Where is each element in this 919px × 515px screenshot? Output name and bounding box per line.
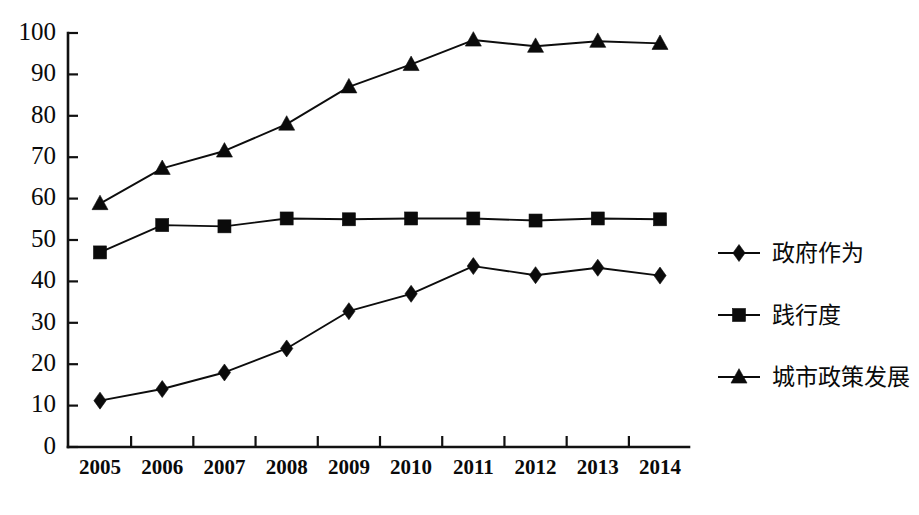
marker-square xyxy=(654,213,667,226)
marker-square xyxy=(405,212,418,225)
x-axis-tick-label: 2005 xyxy=(79,455,121,479)
chart-legend: 政府作为践行度城市政策发展 xyxy=(718,240,910,390)
series-2 xyxy=(94,212,667,259)
series-polyline xyxy=(100,266,660,401)
y-axis-tick-label: 30 xyxy=(31,308,56,335)
marker-triangle xyxy=(590,33,606,47)
marker-square xyxy=(467,212,480,225)
legend-label: 政府作为 xyxy=(772,240,864,266)
marker-square xyxy=(591,212,604,225)
marker-triangle xyxy=(216,143,232,157)
marker-diamond xyxy=(733,245,745,262)
marker-square xyxy=(156,219,169,232)
legend-label: 城市政策发展 xyxy=(772,364,910,390)
marker-diamond xyxy=(156,381,168,398)
marker-diamond xyxy=(281,340,293,357)
y-axis-tick-label: 80 xyxy=(31,101,56,128)
x-axis-tick-label: 2010 xyxy=(390,455,432,479)
y-axis-tick-label: 90 xyxy=(31,59,56,86)
y-axis-tick-label: 10 xyxy=(31,390,56,417)
marker-diamond xyxy=(592,259,604,276)
marker-diamond xyxy=(654,267,666,284)
marker-triangle xyxy=(403,56,419,70)
marker-square xyxy=(280,212,293,225)
marker-diamond xyxy=(218,364,230,381)
legend-item-1[interactable]: 政府作为 xyxy=(718,240,864,266)
x-axis-tick-label: 2013 xyxy=(577,455,619,479)
x-axis-tick-label: 2012 xyxy=(515,455,557,479)
x-axis-tick-label: 2007 xyxy=(203,455,245,479)
legend-item-2[interactable]: 践行度 xyxy=(718,302,841,328)
marker-square xyxy=(218,220,231,233)
y-axis-tick-label: 70 xyxy=(31,142,56,169)
line-chart: 1009080706050403020100 20052006200720082… xyxy=(0,0,919,515)
marker-square xyxy=(94,246,107,259)
marker-triangle xyxy=(652,35,668,49)
legend-label: 践行度 xyxy=(772,302,841,328)
y-axis-tick-label: 20 xyxy=(31,349,56,376)
series-1 xyxy=(94,258,666,410)
chart-canvas: 1009080706050403020100 20052006200720082… xyxy=(0,0,919,515)
x-axis-tick-label: 2011 xyxy=(453,455,494,479)
marker-triangle xyxy=(92,195,108,209)
x-axis-tick-label: 2006 xyxy=(141,455,183,479)
series-polyline xyxy=(100,40,660,204)
marker-triangle xyxy=(465,32,481,46)
x-axis-tick-label: 2008 xyxy=(266,455,308,479)
marker-diamond xyxy=(343,303,355,320)
series-container xyxy=(92,32,668,409)
faint-caption xyxy=(110,494,810,510)
legend-item-3[interactable]: 城市政策发展 xyxy=(718,364,910,390)
x-axis-tick-label: 2009 xyxy=(328,455,370,479)
series-3 xyxy=(92,32,668,210)
marker-square xyxy=(733,309,746,322)
marker-square xyxy=(529,214,542,227)
series-polyline xyxy=(100,218,660,252)
marker-triangle xyxy=(279,116,295,130)
marker-diamond xyxy=(467,258,479,275)
y-axis-tick-label: 0 xyxy=(44,432,57,459)
y-axis-tick-label: 100 xyxy=(19,18,57,45)
y-axis-tick-label: 60 xyxy=(31,183,56,210)
y-axis-tick-label: 50 xyxy=(31,225,56,252)
x-axis: 2005200620072008200920102011201220132014 xyxy=(68,436,689,479)
marker-diamond xyxy=(94,392,106,409)
marker-diamond xyxy=(405,285,417,302)
y-axis: 1009080706050403020100 xyxy=(19,18,79,459)
marker-square xyxy=(342,213,355,226)
marker-triangle xyxy=(731,369,747,383)
marker-diamond xyxy=(529,267,541,284)
x-axis-tick-label: 2014 xyxy=(639,455,682,479)
y-axis-tick-label: 40 xyxy=(31,266,56,293)
